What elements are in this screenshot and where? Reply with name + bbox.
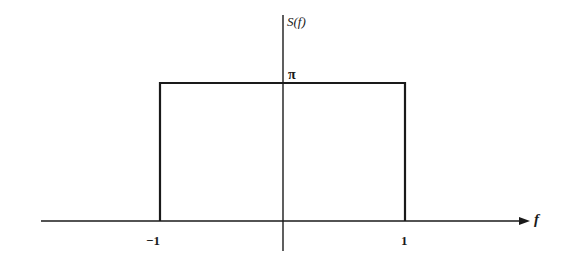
rect-function-diagram (0, 0, 573, 268)
neg-one-tick-label: −1 (146, 234, 160, 247)
y-axis-label: S(f) (287, 15, 306, 28)
x-axis-arrow-icon (519, 217, 530, 225)
pos-one-tick-label: 1 (401, 234, 408, 247)
pi-tick-label: π (288, 68, 296, 82)
x-axis-label: f (534, 212, 539, 227)
